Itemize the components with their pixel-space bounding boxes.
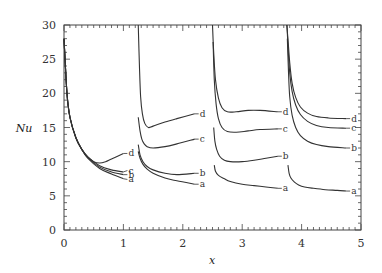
curve-label-a: a	[200, 179, 206, 189]
x-tick-label: 1	[120, 237, 127, 250]
curve-label-c: c	[283, 124, 288, 134]
curve-a-segment-3	[214, 165, 278, 188]
curve-label-b: b	[200, 168, 206, 178]
curve-c-segment-3	[213, 42, 278, 132]
x-tick-label: 2	[179, 237, 186, 250]
curve-b-segment-1	[64, 39, 123, 175]
curve-label-a: a	[283, 183, 289, 193]
x-axis-label: x	[209, 254, 216, 267]
curve-b-segment-4	[287, 39, 346, 148]
curve-d-segment-2	[138, 25, 194, 128]
nusselt-chart: 012345051015202530 dcbadcbadcbadcba x Nu	[0, 0, 382, 273]
axis-ticks	[64, 25, 361, 230]
plot-frame	[64, 25, 361, 230]
x-tick-label: 5	[358, 237, 365, 250]
y-tick-label: 10	[42, 156, 56, 169]
x-tick-label: 3	[239, 237, 246, 250]
curve-label-d: d	[351, 114, 357, 124]
curve-label-d: d	[128, 148, 134, 158]
curve-d-segment-1	[64, 39, 123, 163]
y-tick-label: 5	[49, 190, 56, 203]
curve-c-segment-4	[287, 25, 346, 128]
x-tick-label: 0	[61, 237, 68, 250]
curve-b-segment-2	[138, 145, 194, 175]
curve-label-a: a	[128, 174, 134, 184]
curve-label-c: c	[351, 123, 356, 133]
curve-label-b: b	[283, 151, 289, 161]
curve-labels: dcbadcbadcbadcba	[123, 107, 357, 196]
y-tick-label: 15	[42, 122, 56, 135]
y-tick-label: 25	[42, 53, 56, 66]
curve-label-d: d	[200, 109, 206, 119]
curve-a-segment-2	[138, 151, 194, 184]
curve-a-segment-4	[288, 165, 346, 191]
plot-border	[64, 25, 361, 230]
curve-label-a: a	[351, 186, 357, 196]
y-axis-label: Nu	[15, 122, 33, 135]
y-tick-label: 20	[42, 87, 56, 100]
y-tick-label: 30	[42, 19, 56, 32]
curve-b-segment-3	[214, 128, 278, 162]
curve-c-segment-1	[64, 39, 123, 172]
curve-d-segment-3	[213, 25, 278, 112]
curve-label-b: b	[351, 143, 357, 153]
curve-label-c: c	[200, 134, 205, 144]
y-tick-label: 0	[49, 224, 56, 237]
x-tick-label: 4	[298, 237, 305, 250]
curve-label-d: d	[283, 107, 289, 117]
